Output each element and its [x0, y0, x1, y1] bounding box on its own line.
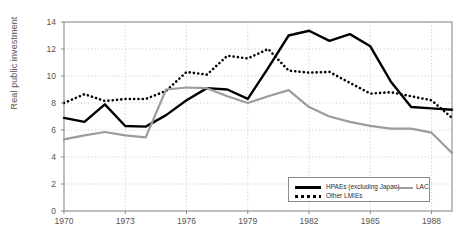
y-tick-label: 12: [32, 44, 56, 54]
x-tick-label: 1988: [417, 216, 447, 226]
plot-area: 024681012141970197319761979198219851988: [0, 0, 469, 248]
legend-label-hpaes: HPAEs (excluding Japan): [326, 183, 400, 190]
legend-label-other-lmies: Other LMIEs: [326, 192, 362, 199]
x-tick-label: 1973: [110, 216, 140, 226]
legend-swatch-other-lmies: [295, 195, 321, 198]
y-tick-label: 14: [32, 17, 56, 27]
y-tick-label: 2: [32, 179, 56, 189]
legend-label-lac: LAC: [416, 183, 429, 190]
x-tick-label: 1982: [294, 216, 324, 226]
series-line-2: [64, 87, 452, 152]
chart-figure: Real public investment 02468101214197019…: [0, 0, 469, 248]
chart-legend: HPAEs (excluding Japan) LAC Other LMIEs: [288, 177, 430, 202]
line-chart-svg: [0, 0, 469, 248]
y-tick-label: 8: [32, 98, 56, 108]
legend-swatch-hpaes: [295, 186, 321, 189]
series-line-0: [64, 31, 452, 127]
y-tick-label: 0: [32, 206, 56, 216]
x-tick-label: 1976: [172, 216, 202, 226]
y-tick-label: 10: [32, 71, 56, 81]
x-tick-label: 1979: [233, 216, 263, 226]
legend-swatch-lac: [393, 187, 413, 189]
y-tick-label: 6: [32, 125, 56, 135]
y-tick-label: 4: [32, 152, 56, 162]
x-tick-label: 1985: [355, 216, 385, 226]
x-tick-label: 1970: [49, 216, 79, 226]
